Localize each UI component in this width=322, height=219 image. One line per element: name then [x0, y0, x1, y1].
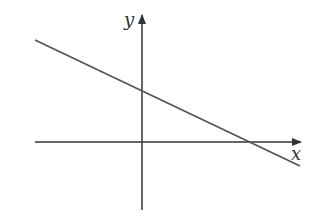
graph-line [35, 40, 300, 166]
coordinate-diagram: y x [0, 0, 322, 219]
x-axis-label: x [291, 143, 301, 164]
y-axis-label: y [123, 9, 135, 30]
